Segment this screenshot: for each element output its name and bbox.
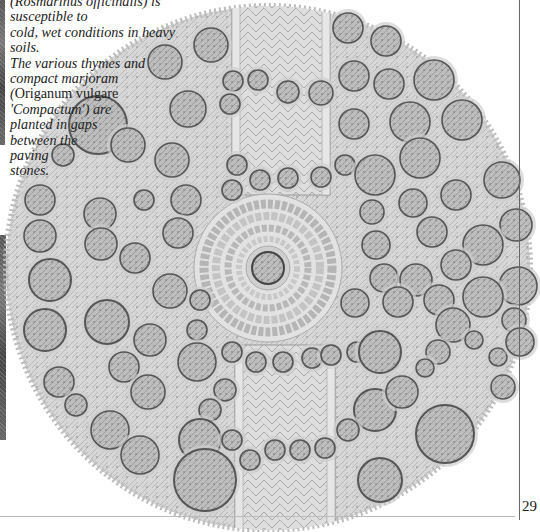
plant-marker (178, 343, 216, 381)
plant-marker (163, 218, 193, 248)
plant-marker (400, 138, 440, 178)
plant-marker (416, 359, 434, 377)
plant-marker (371, 26, 401, 56)
plant-marker (171, 185, 201, 215)
caption-line: The various thymes and (10, 56, 200, 71)
plant-marker (309, 81, 333, 105)
plant-marker (240, 450, 260, 470)
plant-marker (278, 168, 298, 188)
margin-rule-horizontal (0, 516, 515, 517)
plant-marker (383, 287, 413, 317)
plant-marker (134, 190, 154, 210)
plant-marker (190, 290, 210, 310)
caption-text: (Rosmarinus officinalis) is susceptible … (10, 0, 200, 179)
central-plant (252, 252, 284, 284)
plant-marker (273, 352, 293, 372)
caption-line: (Rosmarinus officinalis) is susceptible … (10, 0, 200, 25)
plant-marker (223, 71, 243, 91)
caption-line: planted in gaps (10, 117, 200, 132)
caption-line: stones. (10, 163, 200, 178)
plant-marker (465, 331, 483, 349)
plant-marker (463, 277, 503, 317)
plant-marker (339, 109, 369, 139)
plant-marker (417, 217, 447, 247)
plant-marker (120, 243, 150, 273)
plant-marker (311, 167, 331, 187)
caption-line: paving (10, 148, 200, 163)
plant-marker (65, 394, 87, 416)
plant-marker (441, 180, 471, 210)
caption-line: cold, wet conditions in heavy soils. (10, 25, 200, 56)
plant-marker (333, 13, 363, 43)
caption-line: 'Compactum') are (10, 102, 200, 117)
plant-marker (265, 440, 285, 460)
margin-rule-vertical (519, 0, 520, 520)
caption-species-name: Origanum vulgare (15, 85, 119, 101)
plant-marker (29, 259, 71, 301)
plant-marker (250, 170, 270, 190)
plant-marker (337, 419, 359, 441)
plant-marker (134, 324, 166, 356)
plant-marker (321, 345, 341, 365)
plant-marker (441, 250, 471, 280)
plant-marker (222, 342, 242, 362)
caption-line: compact marjoram (10, 71, 200, 86)
plant-marker (442, 100, 482, 140)
plant-marker (85, 228, 117, 260)
plant-marker (131, 375, 165, 409)
plant-marker (246, 352, 266, 372)
plant-marker (222, 430, 242, 450)
plant-marker (341, 289, 369, 317)
plant-marker (85, 300, 129, 344)
plant-marker (359, 331, 401, 373)
plant-marker (416, 405, 474, 463)
plant-marker (414, 60, 454, 100)
plant-marker (25, 185, 55, 215)
plant-marker (277, 81, 299, 103)
plant-marker (360, 200, 384, 224)
plant-marker (222, 180, 242, 200)
caption-line: (Origanum vulgare (10, 86, 200, 101)
plant-marker (484, 162, 520, 198)
plant-marker (491, 375, 515, 399)
plant-marker (227, 155, 247, 175)
plant-marker (315, 438, 335, 458)
plant-marker (355, 155, 395, 195)
plant-marker (174, 449, 236, 511)
plant-marker (362, 231, 390, 259)
plant-marker (290, 440, 310, 460)
plant-marker (339, 61, 369, 91)
plant-marker (358, 458, 402, 502)
page-number: 29 (522, 498, 537, 515)
caption-line: between the (10, 133, 200, 148)
plant-marker (374, 69, 404, 99)
plant-marker (24, 309, 66, 351)
plant-marker (121, 436, 159, 474)
plant-marker (187, 320, 207, 340)
plant-marker (506, 328, 534, 356)
plant-marker (248, 70, 268, 90)
plant-marker (220, 94, 240, 114)
plant-marker (386, 376, 418, 408)
plant-marker (24, 220, 56, 252)
plant-marker (153, 274, 187, 308)
plant-marker (399, 189, 427, 217)
